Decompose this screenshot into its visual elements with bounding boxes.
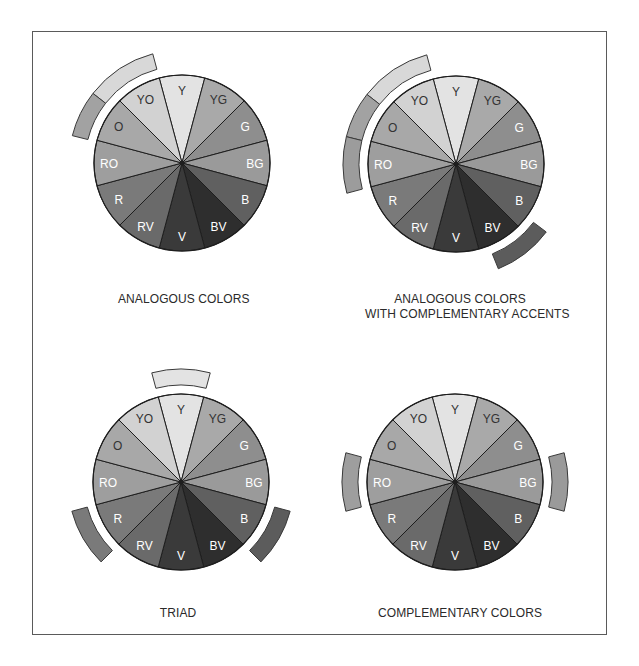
segment-label: YG (484, 94, 501, 108)
color-wheel-complementary: YYGGBGBBVVRVRROOYO (342, 394, 568, 570)
segment-label: BV (209, 539, 225, 553)
segment-label: Y (451, 403, 459, 417)
segment-label: Y (452, 85, 460, 99)
segment-label: YG (209, 412, 226, 426)
segment-label: RO (99, 476, 117, 490)
segment-label: RO (373, 476, 391, 490)
segment-label: B (515, 194, 523, 208)
wheel-center-dot (179, 480, 184, 485)
caption-analogous: ANALOGOUS COLORS (118, 292, 248, 307)
segment-label: R (113, 512, 122, 526)
segment-label: YO (137, 93, 154, 107)
caption-triad: TRIAD (148, 606, 208, 621)
caption-complementary: COMPLEMENTARY COLORS (375, 606, 545, 621)
segment-label: R (388, 194, 397, 208)
segment-label: Y (177, 403, 185, 417)
segment-label: BG (246, 157, 263, 171)
segment-label: RO (374, 158, 392, 172)
segment-label: V (451, 549, 459, 563)
segment-label: R (114, 193, 123, 207)
color-wheel-analogous-complementary: YYGGBGBBVVRVRROOYO (343, 55, 546, 269)
segment-label: YO (411, 94, 428, 108)
segment-label: O (388, 121, 397, 135)
segment-label: BG (519, 476, 536, 490)
color-wheel-triad: YYGGBGBBVVRVRROOYO (72, 369, 290, 570)
segment-label: BV (483, 539, 499, 553)
wheel-center-dot (180, 161, 185, 166)
segment-label: O (113, 439, 122, 453)
segment-label: BG (245, 476, 262, 490)
segment-label: O (114, 120, 123, 134)
segment-label: O (387, 439, 396, 453)
segment-label: YO (410, 412, 427, 426)
segment-label: RV (410, 539, 426, 553)
accent-arc (343, 137, 362, 194)
segment-label: G (514, 439, 523, 453)
accent-arc (549, 453, 568, 511)
segment-label: YO (136, 412, 153, 426)
segment-label: B (240, 512, 248, 526)
color-wheels-diagram: YYGGBGBBVVRVRROOYOYYGGBGBBVVRVRROOYOYYGG… (0, 0, 639, 666)
segment-label: RV (136, 539, 152, 553)
segment-label: RV (137, 220, 153, 234)
caption-analogous-comp-line1: ANALOGOUS COLORS (365, 292, 555, 307)
color-wheel-analogous: YYGGBGBBVVRVRROOYO (72, 54, 270, 251)
accent-arc (342, 453, 361, 511)
wheel-center-dot (453, 480, 458, 485)
segment-label: V (177, 549, 185, 563)
segment-label: G (241, 120, 250, 134)
segment-label: BV (484, 221, 500, 235)
segment-label: RV (411, 221, 427, 235)
wheel-center-dot (454, 162, 459, 167)
segment-label: V (178, 230, 186, 244)
segment-label: YG (210, 93, 227, 107)
segment-label: G (515, 121, 524, 135)
segment-label: Y (178, 84, 186, 98)
segment-label: YG (483, 412, 500, 426)
segment-label: BG (520, 158, 537, 172)
segment-label: BV (210, 220, 226, 234)
segment-label: V (452, 231, 460, 245)
segment-label: G (240, 439, 249, 453)
segment-label: B (514, 512, 522, 526)
segment-label: R (387, 512, 396, 526)
segment-label: B (241, 193, 249, 207)
accent-arc (152, 369, 210, 388)
segment-label: RO (100, 157, 118, 171)
caption-analogous-comp-line2: WITH COMPLEMENTARY ACCENTS (365, 307, 555, 322)
